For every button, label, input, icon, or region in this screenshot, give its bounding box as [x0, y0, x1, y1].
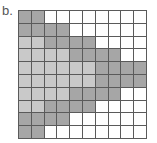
grid-cell-light-gray — [57, 49, 70, 62]
figure-panel: b. — [0, 0, 157, 143]
grid-cell-light-gray — [45, 88, 58, 101]
grid-cell-dark-gray — [57, 113, 70, 126]
grid-cell-dark-gray — [70, 88, 83, 101]
grid-cell-light-gray — [57, 88, 70, 101]
grid-cell-dark-gray — [19, 24, 32, 37]
grid-cell-dark-gray — [57, 101, 70, 114]
grid-cell-light-gray — [45, 75, 58, 88]
grid-cell-dark-gray — [57, 37, 70, 50]
grid-cell-white — [70, 126, 83, 139]
grid-cell-white — [109, 101, 122, 114]
grid-cell-dark-gray — [134, 75, 147, 88]
grid-cell-white — [121, 49, 134, 62]
grid-cell-light-gray — [70, 62, 83, 75]
grid-cell-white — [121, 113, 134, 126]
grid-cell-light-gray — [57, 75, 70, 88]
grid-cell-dark-gray — [96, 49, 109, 62]
grid-cell-light-gray — [32, 62, 45, 75]
grid-cell-dark-gray — [32, 126, 45, 139]
grid-cell-light-gray — [32, 101, 45, 114]
grid-cell-dark-gray — [19, 126, 32, 139]
grid-cell-dark-gray — [121, 62, 134, 75]
grid-cell-white — [83, 11, 96, 24]
grid-cell-dark-gray — [45, 101, 58, 114]
grid-cell-white — [96, 126, 109, 139]
grid-cell-dark-gray — [32, 11, 45, 24]
grid-cell-dark-gray — [96, 62, 109, 75]
grid-cell-white — [134, 24, 147, 37]
panel-label: b. — [2, 4, 13, 17]
grid-cell-light-gray — [19, 75, 32, 88]
grid-cell-white — [134, 126, 147, 139]
grid-cell-dark-gray — [96, 88, 109, 101]
grid-cell-dark-gray — [45, 24, 58, 37]
grid-cell-white — [121, 11, 134, 24]
grid-cell-white — [57, 126, 70, 139]
grid-cell-white — [121, 37, 134, 50]
grid-cell-light-gray — [32, 49, 45, 62]
grid-cell-white — [45, 126, 58, 139]
grid-cell-light-gray — [32, 88, 45, 101]
grid-cell-white — [109, 113, 122, 126]
grid-cell-white — [121, 88, 134, 101]
grid-cell-white — [96, 37, 109, 50]
grid-cell-dark-gray — [57, 24, 70, 37]
grid-cell-white — [134, 49, 147, 62]
grid-cell-white — [109, 126, 122, 139]
grid-cell-dark-gray — [96, 75, 109, 88]
grid-cell-light-gray — [45, 49, 58, 62]
grid-cell-white — [134, 11, 147, 24]
grid-cell-white — [121, 101, 134, 114]
grid-cell-light-gray — [19, 101, 32, 114]
grid-cell-dark-gray — [83, 49, 96, 62]
grid-cell-white — [70, 24, 83, 37]
grid-cell-white — [83, 113, 96, 126]
grid-cell-light-gray — [32, 75, 45, 88]
grid-cell-dark-gray — [70, 49, 83, 62]
grid-cell-light-gray — [32, 37, 45, 50]
grid-cell-dark-gray — [19, 113, 32, 126]
shaded-grid — [18, 10, 147, 139]
grid-cell-white — [121, 126, 134, 139]
grid-cell-white — [83, 126, 96, 139]
grid-cell-white — [96, 113, 109, 126]
grid-cell-white — [57, 11, 70, 24]
grid-cell-dark-gray — [109, 88, 122, 101]
grid-cell-white — [134, 101, 147, 114]
grid-cell-light-gray — [83, 62, 96, 75]
grid-cell-light-gray — [57, 62, 70, 75]
grid-cell-dark-gray — [83, 88, 96, 101]
grid-cell-dark-gray — [45, 113, 58, 126]
grid-cell-white — [70, 113, 83, 126]
grid-cell-light-gray — [45, 62, 58, 75]
grid-cell-dark-gray — [134, 62, 147, 75]
grid-cell-white — [121, 24, 134, 37]
grid-cell-white — [70, 11, 83, 24]
grid-cell-dark-gray — [45, 37, 58, 50]
grid-cell-dark-gray — [19, 11, 32, 24]
grid-cell-dark-gray — [70, 37, 83, 50]
grid-cell-dark-gray — [109, 49, 122, 62]
grid-cell-dark-gray — [32, 24, 45, 37]
grid-cell-dark-gray — [121, 75, 134, 88]
grid-cell-white — [134, 113, 147, 126]
grid-cell-white — [109, 11, 122, 24]
grid-cell-white — [96, 11, 109, 24]
grid-cell-white — [45, 11, 58, 24]
grid-cell-dark-gray — [70, 101, 83, 114]
grid-cell-light-gray — [19, 88, 32, 101]
grid-cell-light-gray — [83, 75, 96, 88]
grid-cell-dark-gray — [109, 62, 122, 75]
grid-cell-white — [109, 24, 122, 37]
grid-cell-dark-gray — [32, 113, 45, 126]
grid-cell-dark-gray — [83, 101, 96, 114]
grid-cell-light-gray — [19, 49, 32, 62]
grid-cell-light-gray — [70, 75, 83, 88]
grid-cell-dark-gray — [83, 37, 96, 50]
grid-cell-light-gray — [19, 37, 32, 50]
grid-cell-white — [83, 24, 96, 37]
grid-cell-white — [96, 101, 109, 114]
grid-cell-white — [134, 88, 147, 101]
grid-cell-white — [134, 37, 147, 50]
grid-cell-light-gray — [19, 62, 32, 75]
